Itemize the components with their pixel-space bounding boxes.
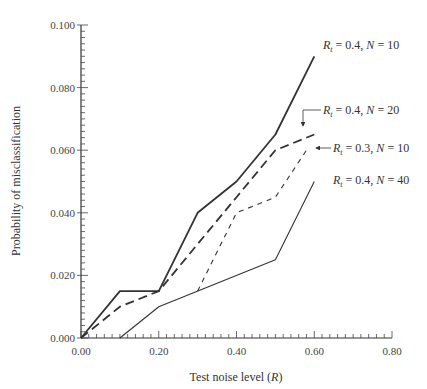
y-tick-label: 0.040 <box>50 207 75 219</box>
x-tick-label: 0.60 <box>305 345 325 357</box>
series-line <box>81 56 314 338</box>
series-line <box>81 135 314 339</box>
y-tick-label: 0.080 <box>50 82 75 94</box>
y-tick-label: 0.060 <box>50 144 75 156</box>
legend: Rt = 0.4, N = 10Rt = 0.4, N = 20Rt = 0.3… <box>303 38 409 189</box>
x-tick-label: 0.40 <box>227 345 247 357</box>
leader-arrow <box>303 110 321 126</box>
y-axis-title: Probability of misclassification <box>9 106 23 256</box>
legend-label: Rt = 0.4, N = 20 <box>322 103 399 119</box>
plot-series <box>81 56 314 338</box>
y-tick-label: 0.100 <box>50 19 75 31</box>
x-axis-title: Test noise level (R) <box>190 370 283 384</box>
legend-label: Rt = 0.4, N = 10 <box>322 38 399 54</box>
series-line <box>120 182 314 339</box>
y-tick-label: 0.000 <box>50 332 75 344</box>
series-line <box>198 150 307 291</box>
chart: 0.000.200.400.600.800.0000.0200.0400.060… <box>0 0 427 389</box>
legend-label: Rt = 0.4, N = 40 <box>332 173 409 189</box>
y-tick-label: 0.020 <box>50 269 75 281</box>
x-tick-label: 0.80 <box>382 345 402 357</box>
x-tick-label: 0.20 <box>149 345 169 357</box>
legend-label: Rt = 0.3, N = 10 <box>332 141 409 157</box>
tick-labels: 0.000.200.400.600.800.0000.0200.0400.060… <box>50 19 402 357</box>
x-tick-label: 0.00 <box>71 345 91 357</box>
